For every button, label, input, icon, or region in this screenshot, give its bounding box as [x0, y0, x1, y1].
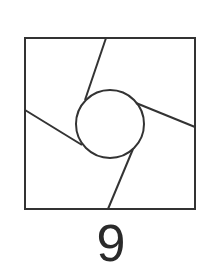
center-circle: [76, 90, 144, 158]
line-left: [25, 110, 82, 145]
outer-square: [25, 38, 195, 209]
diagram-figure: 9: [0, 0, 205, 275]
figure-label: 9: [0, 218, 205, 268]
